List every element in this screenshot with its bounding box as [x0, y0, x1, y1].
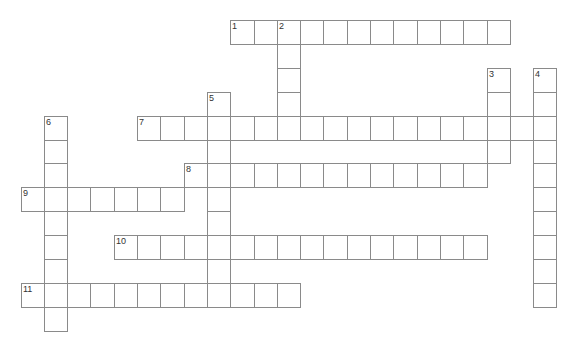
crossword-cell[interactable]: [90, 283, 115, 308]
crossword-cell[interactable]: [323, 116, 348, 141]
crossword-cell[interactable]: [393, 163, 418, 188]
crossword-cell[interactable]: 11: [21, 283, 45, 308]
crossword-cell[interactable]: [207, 283, 231, 308]
crossword-cell[interactable]: [207, 259, 231, 284]
crossword-cell[interactable]: [440, 116, 464, 141]
crossword-cell[interactable]: [254, 163, 278, 188]
crossword-cell[interactable]: [300, 116, 324, 141]
crossword-cell[interactable]: [44, 259, 68, 284]
crossword-cell[interactable]: 4: [533, 68, 557, 93]
crossword-cell[interactable]: [44, 140, 68, 164]
crossword-cell[interactable]: [533, 283, 557, 308]
crossword-cell[interactable]: [417, 116, 441, 141]
crossword-cell[interactable]: [370, 163, 394, 188]
crossword-cell[interactable]: [277, 68, 301, 93]
crossword-cell[interactable]: [114, 187, 138, 212]
crossword-cell[interactable]: [347, 163, 371, 188]
crossword-cell[interactable]: [417, 163, 441, 188]
crossword-cell[interactable]: [300, 235, 324, 260]
crossword-cell[interactable]: [440, 20, 464, 45]
crossword-cell[interactable]: [277, 163, 301, 188]
crossword-cell[interactable]: [114, 283, 138, 308]
crossword-cell[interactable]: 10: [114, 235, 138, 260]
crossword-cell[interactable]: [417, 20, 441, 45]
crossword-cell[interactable]: [463, 116, 488, 141]
crossword-cell[interactable]: [44, 235, 68, 260]
crossword-cell[interactable]: [300, 20, 324, 45]
crossword-cell[interactable]: 3: [487, 68, 511, 93]
crossword-cell[interactable]: [44, 211, 68, 236]
crossword-cell[interactable]: [254, 20, 278, 45]
crossword-cell[interactable]: [370, 20, 394, 45]
crossword-cell[interactable]: [440, 163, 464, 188]
crossword-cell[interactable]: [533, 116, 557, 141]
crossword-cell[interactable]: [323, 235, 348, 260]
crossword-cell[interactable]: [254, 283, 278, 308]
crossword-cell[interactable]: 9: [21, 187, 45, 212]
crossword-cell[interactable]: [510, 116, 534, 141]
crossword-cell[interactable]: [323, 20, 348, 45]
crossword-cell[interactable]: [323, 163, 348, 188]
crossword-cell[interactable]: [254, 116, 278, 141]
crossword-cell[interactable]: [137, 235, 161, 260]
crossword-cell[interactable]: [207, 140, 231, 164]
crossword-cell[interactable]: [347, 20, 371, 45]
crossword-cell[interactable]: [230, 116, 255, 141]
crossword-cell[interactable]: [207, 235, 231, 260]
crossword-cell[interactable]: [277, 283, 301, 308]
crossword-cell[interactable]: [393, 235, 418, 260]
crossword-cell[interactable]: [184, 116, 208, 141]
crossword-cell[interactable]: [230, 235, 255, 260]
crossword-cell[interactable]: [463, 235, 488, 260]
crossword-cell[interactable]: [137, 283, 161, 308]
crossword-cell[interactable]: 6: [44, 116, 68, 141]
crossword-cell[interactable]: [277, 92, 301, 117]
crossword-cell[interactable]: [487, 140, 511, 164]
crossword-cell[interactable]: 1: [230, 20, 255, 45]
crossword-cell[interactable]: [230, 163, 255, 188]
crossword-cell[interactable]: [533, 163, 557, 188]
crossword-cell[interactable]: [44, 163, 68, 188]
crossword-cell[interactable]: 5: [207, 92, 231, 117]
crossword-cell[interactable]: [533, 235, 557, 260]
crossword-cell[interactable]: [277, 235, 301, 260]
crossword-cell[interactable]: [184, 235, 208, 260]
crossword-cell[interactable]: 8: [184, 163, 208, 188]
crossword-cell[interactable]: [440, 235, 464, 260]
crossword-cell[interactable]: [370, 116, 394, 141]
crossword-cell[interactable]: [463, 20, 488, 45]
crossword-cell[interactable]: [254, 235, 278, 260]
crossword-cell[interactable]: [44, 187, 68, 212]
crossword-cell[interactable]: [533, 259, 557, 284]
crossword-cell[interactable]: [487, 20, 511, 45]
crossword-cell[interactable]: [347, 235, 371, 260]
crossword-cell[interactable]: [533, 140, 557, 164]
crossword-cell[interactable]: [277, 116, 301, 141]
crossword-cell[interactable]: [207, 116, 231, 141]
crossword-cell[interactable]: [184, 283, 208, 308]
crossword-cell[interactable]: [347, 116, 371, 141]
crossword-cell[interactable]: [160, 283, 185, 308]
crossword-cell[interactable]: [487, 92, 511, 117]
crossword-cell[interactable]: [533, 211, 557, 236]
crossword-cell[interactable]: [230, 283, 255, 308]
crossword-cell[interactable]: [207, 163, 231, 188]
crossword-cell[interactable]: 2: [277, 20, 301, 45]
crossword-cell[interactable]: [533, 187, 557, 212]
crossword-cell[interactable]: [393, 20, 418, 45]
crossword-cell[interactable]: [137, 187, 161, 212]
crossword-cell[interactable]: [44, 307, 68, 332]
crossword-cell[interactable]: [90, 187, 115, 212]
crossword-cell[interactable]: [417, 235, 441, 260]
crossword-cell[interactable]: [370, 235, 394, 260]
crossword-cell[interactable]: [277, 44, 301, 69]
crossword-cell[interactable]: [533, 92, 557, 117]
crossword-cell[interactable]: [160, 187, 185, 212]
crossword-cell[interactable]: [487, 116, 511, 141]
crossword-cell[interactable]: [300, 163, 324, 188]
crossword-cell[interactable]: [160, 235, 185, 260]
crossword-cell[interactable]: 7: [137, 116, 161, 141]
crossword-cell[interactable]: [207, 187, 231, 212]
crossword-cell[interactable]: [463, 163, 488, 188]
crossword-cell[interactable]: [67, 187, 91, 212]
